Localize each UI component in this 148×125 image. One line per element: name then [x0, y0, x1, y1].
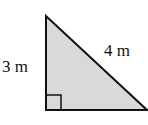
vertical-leg-label: 3 m — [2, 57, 28, 76]
hypotenuse-label: 4 m — [104, 41, 130, 60]
triangle-diagram: 3 m 4 m — [0, 0, 148, 125]
